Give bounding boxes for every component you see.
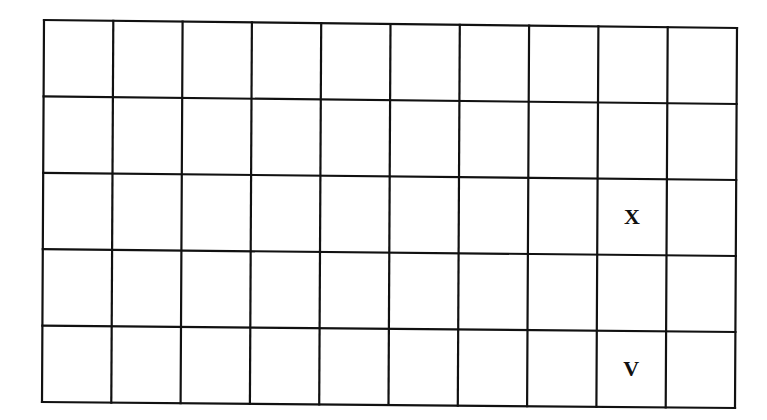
grid-col-line <box>458 25 460 406</box>
grid-col-line <box>42 20 44 402</box>
cell-label-v: V <box>623 358 639 380</box>
grid-col-line <box>111 21 113 403</box>
grid-col-line <box>389 24 391 405</box>
grid-col-line <box>250 22 252 403</box>
grid-diagram <box>0 0 767 420</box>
grid-col-line <box>666 27 668 407</box>
grid-col-line <box>181 22 183 404</box>
grid-col-line <box>596 26 598 406</box>
grid-col-line <box>735 28 737 408</box>
grid-col-line <box>319 23 321 404</box>
grid-col-line <box>527 26 529 407</box>
cell-label-x: X <box>624 206 640 228</box>
